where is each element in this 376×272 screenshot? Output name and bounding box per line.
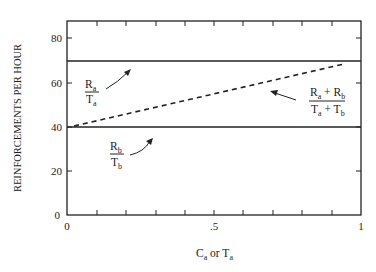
svg-text:Ta + Tb: Ta + Tb xyxy=(311,103,345,118)
svg-text:Tb: Tb xyxy=(111,156,122,171)
x-axis-label: Ca or Ta xyxy=(196,247,233,262)
svg-text:Rb: Rb xyxy=(110,140,122,155)
x-ticks xyxy=(97,21,332,215)
svg-text:Ta: Ta xyxy=(86,93,97,108)
svg-text:Ra: Ra xyxy=(85,78,97,93)
annotation-combined: Ra + Rb Ta + Tb xyxy=(270,86,345,118)
series-combined-dashed-line xyxy=(74,64,344,126)
y-tick-80: 80 xyxy=(51,32,63,44)
chart: 80 60 40 20 0 0 .5 1 REINFORCEMENTS PER … xyxy=(0,0,376,272)
annotation-rb-tb: Rb Tb xyxy=(110,138,153,171)
x-tick-0: 0 xyxy=(64,220,70,232)
y-tick-40: 40 xyxy=(51,121,63,133)
svg-text:Ra + Rb: Ra + Rb xyxy=(310,86,345,101)
y-axis-label: REINFORCEMENTS PER HOUR xyxy=(12,44,23,192)
y-tick-60: 60 xyxy=(51,77,63,89)
arrow-icon xyxy=(270,90,278,96)
x-tick-05: .5 xyxy=(210,220,219,232)
annotation-ra-ta: Ra Ta xyxy=(85,69,131,108)
y-tick-20: 20 xyxy=(51,165,63,177)
x-tick-1: 1 xyxy=(358,220,364,232)
y-tick-labels: 80 60 40 20 0 xyxy=(51,32,63,221)
x-tick-labels: 0 .5 1 xyxy=(64,220,364,232)
arrow-icon xyxy=(146,138,153,145)
y-tick-0: 0 xyxy=(55,209,61,221)
